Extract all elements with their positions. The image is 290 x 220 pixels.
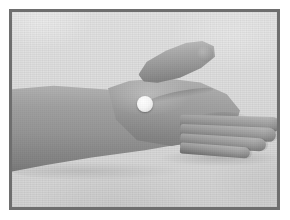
photograph: Round white tablet resting on the back o…: [12, 12, 277, 207]
white-tablet: [137, 96, 153, 112]
fingers-group: [180, 116, 277, 160]
screenshot-canvas: Round white tablet resting on the back o…: [0, 0, 290, 220]
fingertip: [237, 147, 252, 159]
fingertip: [254, 138, 269, 152]
photo-frame: Round white tablet resting on the back o…: [9, 9, 280, 210]
